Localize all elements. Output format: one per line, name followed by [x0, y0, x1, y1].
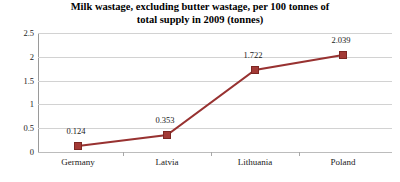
x-axis-label-latvia: Latvia	[131, 157, 203, 168]
series-polyline	[78, 55, 343, 146]
series-line-milk-wastage	[0, 0, 400, 182]
x-axis-label-lithuania: Lithuania	[219, 157, 291, 168]
data-point-marker-lithuania	[252, 67, 259, 74]
data-label-poland: 2.039	[315, 36, 367, 45]
x-axis-label-poland: Poland	[307, 157, 379, 168]
data-label-latvia: 0.353	[139, 116, 191, 125]
data-point-marker-poland	[340, 52, 347, 59]
chart-container: Milk wastage, excluding butter wastage, …	[0, 0, 400, 182]
data-point-marker-latvia	[164, 132, 171, 139]
x-axis-label-germany: Germany	[42, 157, 114, 168]
data-point-marker-germany	[75, 143, 82, 150]
data-label-lithuania: 1.722	[227, 51, 279, 60]
data-label-germany: 0.124	[50, 127, 102, 136]
